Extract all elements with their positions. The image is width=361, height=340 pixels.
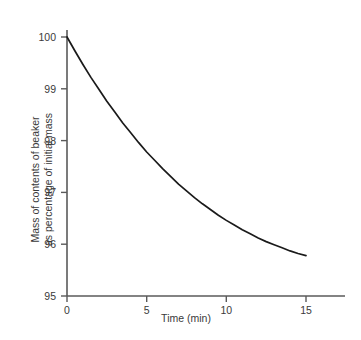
axes-group [67, 30, 345, 296]
x-axis-title: Time (min) [161, 312, 211, 324]
y-axis-title: Mass of contents of beaker as percentage… [29, 74, 56, 284]
y-tick-label-95: 95 [36, 291, 56, 302]
x-tick-label-0: 0 [64, 305, 70, 316]
y-tick-marks [61, 37, 67, 296]
data-series-line [67, 37, 306, 256]
x-tick-label-10: 10 [220, 305, 232, 316]
x-tick-label-5: 5 [144, 305, 150, 316]
x-tick-marks [67, 296, 306, 302]
x-tick-label-15: 15 [300, 305, 312, 316]
y-tick-label-100: 100 [36, 32, 56, 43]
y-axis-title-line-2: as percentage of initial mass [42, 74, 55, 284]
chart-figure: 100 99 98 97 96 95 0 5 10 15 Time (min) … [0, 0, 361, 340]
y-axis-title-line-1: Mass of contents of beaker [29, 74, 42, 284]
